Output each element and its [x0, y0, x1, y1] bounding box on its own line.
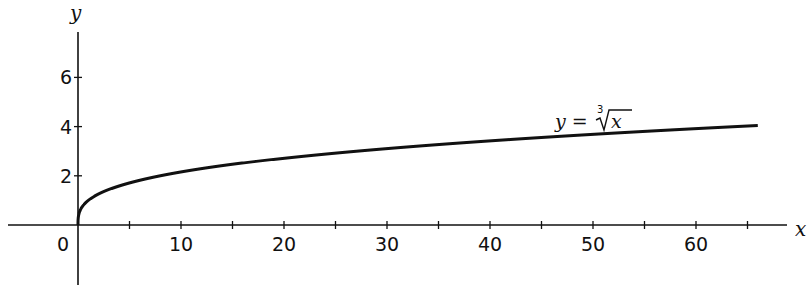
equation-annotation: y = 3 x: [554, 104, 632, 132]
y-axis-label: y: [69, 1, 82, 25]
x-tick-label: 20: [272, 233, 296, 255]
x-axis-label: x: [795, 217, 806, 241]
y-tick-label: 4: [60, 116, 72, 138]
equation-radicand: x: [611, 110, 622, 132]
x-tick-label: 60: [684, 233, 708, 255]
x-ticks: 102030405060: [130, 221, 748, 255]
equation-lhs: y =: [554, 110, 588, 132]
x-tick-label: 10: [169, 233, 193, 255]
x-tick-label: 30: [375, 233, 399, 255]
x-tick-label: 50: [581, 233, 605, 255]
origin-label: 0: [57, 233, 69, 255]
cube-root-curve: [78, 126, 758, 225]
equation-root-index: 3: [597, 104, 603, 115]
x-tick-label: 40: [478, 233, 502, 255]
y-tick-label: 2: [60, 165, 72, 187]
cube-root-chart: 102030405060 246 y x 0 y = 3 x: [0, 0, 811, 300]
y-tick-label: 6: [60, 66, 72, 88]
